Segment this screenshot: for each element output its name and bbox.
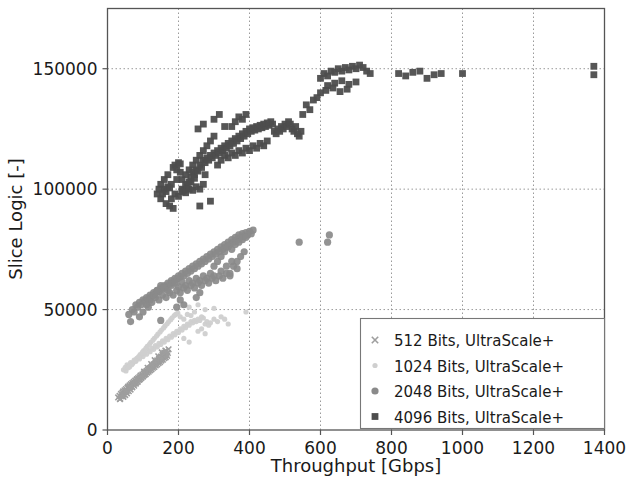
data-point	[195, 302, 200, 307]
data-point	[157, 317, 164, 324]
data-point	[314, 94, 321, 101]
data-point	[150, 338, 155, 343]
data-point	[228, 258, 235, 265]
x-tick-label: 0	[102, 438, 113, 458]
data-point	[242, 234, 249, 241]
data-point	[431, 71, 438, 78]
data-point	[243, 111, 250, 118]
chart-canvas: 0200400600800100012001400 05000010000015…	[0, 0, 627, 483]
data-point	[136, 354, 141, 359]
data-point	[139, 308, 146, 315]
data-point	[211, 133, 218, 140]
data-point	[298, 128, 305, 135]
data-point	[143, 346, 148, 351]
data-point	[127, 318, 134, 325]
data-point	[170, 205, 177, 212]
data-point	[299, 111, 306, 118]
data-point	[218, 267, 225, 274]
x-tick-label: 1000	[441, 438, 484, 458]
data-point	[233, 265, 240, 272]
data-point	[223, 263, 230, 270]
legend-entry-2[interactable]: 2048 Bits, UltraScale+	[371, 383, 564, 401]
data-point	[181, 336, 186, 341]
data-point	[330, 85, 337, 92]
data-point	[353, 79, 360, 86]
data-point	[215, 319, 220, 324]
data-point	[192, 309, 197, 314]
data-point	[438, 70, 445, 77]
data-point	[163, 200, 170, 207]
data-point	[226, 270, 233, 277]
y-tick-label: 100000	[33, 179, 98, 199]
data-point	[202, 171, 209, 178]
x-tick-label: 400	[233, 438, 265, 458]
data-point	[207, 198, 214, 205]
data-point	[367, 70, 374, 77]
legend-label: 4096 Bits, UltraScale+	[394, 409, 564, 427]
y-axis-title: Slice Logic [-]	[5, 158, 26, 279]
data-point	[322, 87, 329, 94]
data-point	[417, 68, 424, 75]
legend-label: 512 Bits, UltraScale+	[394, 332, 554, 350]
data-point	[168, 317, 173, 322]
data-point	[196, 203, 203, 210]
data-point	[264, 138, 271, 145]
data-point	[154, 333, 159, 338]
scatter-plot-figure: 0200400600800100012001400 05000010000015…	[0, 0, 627, 483]
data-point	[173, 304, 180, 311]
legend-entry-1[interactable]: 1024 Bits, UltraScale+	[372, 358, 564, 376]
data-point	[199, 326, 204, 331]
legend-entry-3[interactable]: 4096 Bits, UltraScale+	[372, 409, 564, 427]
data-point	[191, 175, 198, 182]
data-point	[222, 317, 227, 322]
data-point	[459, 70, 466, 77]
legend-label: 1024 Bits, UltraScale+	[394, 358, 564, 376]
data-point	[181, 317, 186, 322]
data-point	[344, 86, 351, 93]
data-point	[200, 121, 207, 128]
data-point	[326, 231, 333, 238]
y-tick-label: 0	[87, 420, 98, 440]
x-tick-label: 1400	[583, 438, 626, 458]
data-point	[196, 289, 203, 296]
data-point	[243, 309, 248, 314]
x-tick-label: 200	[162, 438, 194, 458]
legend-entry-0[interactable]: 512 Bits, UltraScale+	[372, 332, 555, 350]
data-point	[187, 339, 192, 344]
data-point	[395, 70, 402, 77]
legend-marker-point-icon	[372, 363, 377, 368]
data-point	[338, 77, 345, 84]
y-tick-label: 150000	[33, 59, 98, 79]
data-point	[177, 169, 184, 176]
data-point	[296, 239, 303, 246]
data-point	[177, 160, 184, 167]
data-point	[590, 71, 597, 78]
data-point	[129, 362, 134, 367]
data-point	[165, 321, 170, 326]
data-point	[140, 350, 145, 355]
data-point	[203, 331, 208, 336]
legend-marker-square-icon	[372, 413, 379, 420]
data-point	[241, 248, 248, 255]
data-point	[409, 69, 416, 76]
y-tick-label: 50000	[43, 300, 97, 320]
data-point	[216, 111, 223, 118]
data-point	[337, 88, 344, 95]
data-point	[147, 342, 152, 347]
data-point	[249, 226, 256, 233]
data-point	[590, 63, 597, 70]
data-point	[306, 106, 313, 113]
data-point	[133, 358, 138, 363]
data-point	[164, 171, 171, 178]
data-point	[221, 123, 228, 130]
data-point	[157, 329, 162, 334]
data-point	[211, 306, 216, 311]
data-point	[159, 191, 166, 198]
data-point	[203, 307, 208, 312]
chart-legend[interactable]: 512 Bits, UltraScale+1024 Bits, UltraSca…	[361, 319, 605, 429]
data-point	[324, 239, 331, 246]
data-point	[402, 73, 409, 80]
data-point	[226, 321, 231, 326]
legend-label: 2048 Bits, UltraScale+	[394, 383, 564, 401]
x-axis-title: Throughput [Gbps]	[270, 455, 442, 476]
